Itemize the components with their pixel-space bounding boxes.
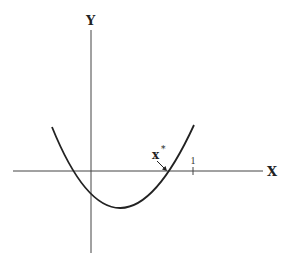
root-label: x xyxy=(152,148,160,162)
function-diagram: 1 Y X x * xyxy=(0,0,284,263)
x-axis-label: X xyxy=(267,164,278,179)
y-axis-label: Y xyxy=(85,13,96,28)
root-label-superscript: * xyxy=(161,144,166,154)
tick-label-1: 1 xyxy=(191,155,196,166)
parabola-curve xyxy=(52,125,194,208)
